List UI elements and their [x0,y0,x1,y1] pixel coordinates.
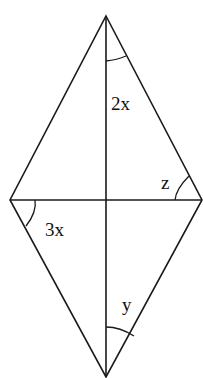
rhombus-diagram: 2x z 3x y [0,0,203,378]
angle-arc-left [26,200,35,226]
label-left-angle: 3x [45,219,65,240]
label-right-angle: z [161,172,169,193]
angle-arc-top [106,56,126,61]
label-bottom-angle: y [122,294,132,315]
angle-arc-right [175,176,189,200]
label-top-angle: 2x [111,93,131,114]
